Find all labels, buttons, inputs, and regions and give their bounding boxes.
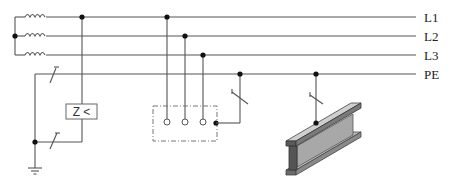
beam-bottom-flange-front	[286, 170, 296, 175]
beam-bond-node	[313, 120, 318, 125]
beam-web-front	[289, 146, 297, 170]
steel-beam	[286, 71, 361, 175]
switch-icon	[50, 133, 57, 149]
bus-lines	[35, 17, 416, 74]
L1-tap-node	[79, 14, 84, 19]
PE-equipment-tap-node	[237, 71, 242, 76]
PE-beam-tap-node	[313, 71, 318, 76]
terminal-L3	[200, 119, 206, 125]
coil-icon	[25, 34, 45, 37]
label-L3: L3	[424, 48, 438, 63]
coil-icon	[25, 53, 45, 56]
L3-equipment-tap-node	[200, 52, 205, 57]
label-L1: L1	[424, 10, 438, 25]
star-point-node	[12, 33, 17, 38]
ground-icon	[28, 168, 42, 174]
terminal-L2	[182, 119, 188, 125]
ground-junction-node	[32, 139, 37, 144]
label-L2: L2	[424, 29, 438, 44]
coil-icon	[25, 15, 45, 18]
terminal-L1	[164, 119, 170, 125]
transformer-windings	[12, 15, 45, 56]
impedance-relay-label: Z <	[73, 105, 91, 119]
L1-equipment-tap-node	[164, 14, 169, 19]
equipment-enclosure	[153, 14, 248, 141]
electrical-schematic: L1 L2 L3 PE Z <	[0, 0, 453, 185]
beam-top-flange-front	[286, 141, 296, 146]
label-PE: PE	[424, 67, 439, 82]
L2-equipment-tap-node	[182, 33, 187, 38]
switch-icon	[50, 68, 56, 83]
impedance-relay-circuit: Z <	[28, 14, 97, 174]
